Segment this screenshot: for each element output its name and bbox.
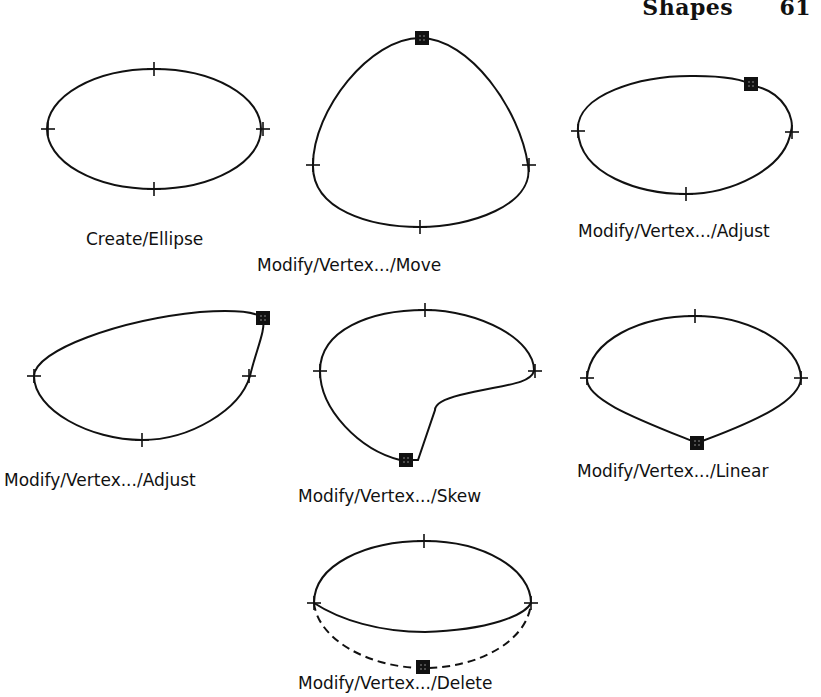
vertex-marker-icon xyxy=(147,182,161,196)
vertex-marker-icon xyxy=(147,62,161,76)
selected-vertex-icon xyxy=(416,32,428,44)
caption-vertex-adjust-2: Modify/Vertex.../Adjust xyxy=(4,470,196,490)
vertex-marker-icon xyxy=(41,122,55,136)
figure-vertex-adjust-1 xyxy=(571,76,799,201)
caption-vertex-linear: Modify/Vertex.../Linear xyxy=(577,461,768,481)
caption-create-ellipse: Create/Ellipse xyxy=(86,229,203,249)
figure-vertex-skew xyxy=(313,303,542,466)
vertex-marker-icon xyxy=(679,187,693,201)
vertex-marker-icon xyxy=(417,534,431,548)
vertex-marker-icon xyxy=(135,433,149,447)
vertex-marker-icon xyxy=(522,158,536,172)
figure-vertex-linear xyxy=(580,309,808,449)
vertex-marker-icon xyxy=(688,309,702,323)
vertex-marker-icon xyxy=(785,125,799,139)
vertex-marker-icon xyxy=(307,596,321,610)
figure-create-ellipse xyxy=(41,62,270,196)
vertex-marker-icon xyxy=(413,220,427,234)
vertex-marker-icon xyxy=(418,303,432,317)
caption-vertex-move: Modify/Vertex.../Move xyxy=(257,255,441,275)
vertex-marker-icon xyxy=(794,371,808,385)
figure-vertex-delete xyxy=(307,534,538,673)
caption-vertex-adjust-1: Modify/Vertex.../Adjust xyxy=(578,221,770,241)
vertex-marker-icon xyxy=(242,369,256,383)
vertex-marker-icon xyxy=(313,364,327,378)
vertex-marker-icon xyxy=(580,371,594,385)
selected-vertex-icon xyxy=(745,78,757,90)
shape-figures xyxy=(0,0,821,697)
vertex-marker-icon xyxy=(256,122,270,136)
selected-vertex-icon xyxy=(691,437,703,449)
caption-vertex-delete: Modify/Vertex.../Delete xyxy=(298,673,493,693)
selected-vertex-icon xyxy=(400,454,412,466)
vertex-marker-icon xyxy=(27,369,41,383)
figure-vertex-move xyxy=(306,32,536,234)
figure-vertex-adjust-2 xyxy=(27,311,269,447)
vertex-marker-icon xyxy=(306,158,320,172)
caption-vertex-skew: Modify/Vertex.../Skew xyxy=(298,486,481,506)
selected-vertex-icon xyxy=(257,312,269,324)
selected-vertex-icon xyxy=(417,661,429,673)
vertex-marker-icon xyxy=(571,124,585,138)
